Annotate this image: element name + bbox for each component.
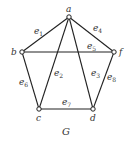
edge-subscript: 1	[39, 30, 43, 37]
vertex-b	[20, 50, 24, 54]
vertex-label-d: d	[90, 113, 96, 123]
edge-label-e5: e5	[87, 41, 96, 52]
edge-subscript: 5	[92, 45, 96, 52]
vertex-f	[112, 50, 116, 54]
vertex-c	[37, 107, 41, 111]
edge-label-e3: e3	[91, 68, 100, 79]
edge-label-e8: e8	[107, 72, 116, 83]
edge-subscript: 3	[96, 72, 100, 79]
edge-label-e6: e6	[19, 77, 28, 88]
edge-subscript: 4	[98, 27, 102, 34]
vertex-d	[91, 107, 95, 111]
edge-subscript: 6	[24, 81, 28, 88]
edge-label-e1: e1	[34, 26, 43, 37]
edge-subscript: 2	[59, 72, 63, 79]
edge-subscript: 8	[112, 76, 116, 83]
edge-subscript: 7	[67, 101, 71, 108]
edge-label-e7: e7	[62, 97, 71, 108]
vertex-label-f: f	[118, 47, 124, 57]
edge-label-e4: e4	[93, 23, 102, 34]
vertex-label-c: c	[36, 113, 41, 123]
graph-diagram: e1e2e3e4e5e6e7e8abfcd G	[0, 0, 132, 144]
edge-e1	[22, 17, 69, 52]
edge-e2	[39, 17, 69, 109]
vertex-a	[67, 15, 71, 19]
vertex-label-b: b	[11, 47, 17, 57]
edge-label-e2: e2	[54, 68, 63, 79]
edge-e3	[69, 17, 93, 109]
graph-caption: G	[62, 126, 70, 137]
vertex-label-a: a	[66, 4, 71, 14]
